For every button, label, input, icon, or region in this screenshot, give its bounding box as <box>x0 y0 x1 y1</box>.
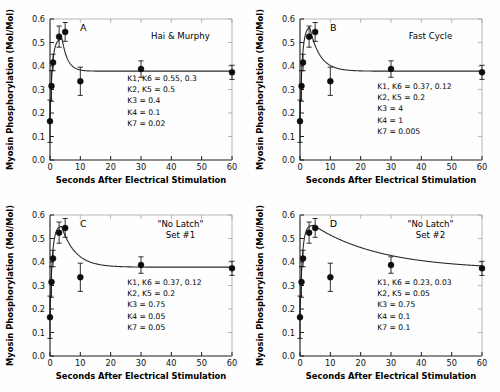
data-point <box>62 225 68 231</box>
svg-text:30: 30 <box>386 162 396 172</box>
panel-b: 01020304050600.00.10.20.30.40.50.6Second… <box>250 0 500 196</box>
panel-letter: D <box>330 218 337 229</box>
parameter-line: K3 = 4 <box>377 104 403 113</box>
data-point <box>47 314 53 320</box>
svg-text:10: 10 <box>325 358 335 368</box>
svg-text:0: 0 <box>297 162 302 172</box>
svg-text:60: 60 <box>477 358 487 368</box>
svg-text:0: 0 <box>297 358 302 368</box>
svg-text:0: 0 <box>47 162 52 172</box>
svg-text:0.4: 0.4 <box>32 61 45 71</box>
svg-text:20: 20 <box>105 162 115 172</box>
svg-text:0.5: 0.5 <box>282 38 295 48</box>
panel-subtitle: Set #1 <box>166 230 196 240</box>
parameter-line: K3 = 0.75 <box>377 300 415 309</box>
svg-text:30: 30 <box>136 162 146 172</box>
svg-text:0.0: 0.0 <box>32 155 45 165</box>
parameter-line: K2, K5 = 0.2 <box>377 93 425 102</box>
parameter-line: K2, K5 = 0.2 <box>127 289 175 298</box>
data-point <box>49 279 55 285</box>
panel-letter: B <box>330 22 337 33</box>
y-axis-label: Myosin Phosphorylation (Mol/Mol) <box>5 205 15 366</box>
svg-text:0.1: 0.1 <box>32 132 45 142</box>
svg-text:50: 50 <box>196 358 206 368</box>
svg-text:40: 40 <box>166 358 176 368</box>
data-point <box>56 34 62 40</box>
panel-subtitle: Set #2 <box>416 230 446 240</box>
svg-text:0.6: 0.6 <box>32 210 45 220</box>
panel-c: 01020304050600.00.10.20.30.40.50.6Second… <box>0 196 250 392</box>
svg-text:20: 20 <box>105 358 115 368</box>
parameter-line: K3 = 0.75 <box>127 300 165 309</box>
parameter-line: K7 = 0.1 <box>377 323 410 332</box>
svg-text:0.4: 0.4 <box>282 257 295 267</box>
svg-text:20: 20 <box>355 358 365 368</box>
svg-text:30: 30 <box>386 358 396 368</box>
data-point <box>138 66 144 72</box>
svg-text:50: 50 <box>446 162 456 172</box>
parameter-line: K4 = 0.05 <box>127 312 165 321</box>
y-axis-label: Myosin Phosphorylation (Mol/Mol) <box>255 205 265 366</box>
svg-text:0.5: 0.5 <box>282 234 295 244</box>
data-point <box>388 262 394 268</box>
svg-text:0.5: 0.5 <box>32 38 45 48</box>
svg-text:10: 10 <box>325 162 335 172</box>
parameter-line: K7 = 0.005 <box>377 127 420 136</box>
data-point <box>138 262 144 268</box>
x-axis-label: Seconds After Electrical Stimulation <box>56 371 227 381</box>
svg-text:60: 60 <box>477 162 487 172</box>
panel-title: Fast Cycle <box>409 31 452 41</box>
data-point <box>300 255 306 261</box>
data-point <box>306 34 312 40</box>
svg-text:20: 20 <box>355 162 365 172</box>
data-point <box>299 279 305 285</box>
data-point <box>62 29 68 35</box>
svg-text:0.1: 0.1 <box>282 328 295 338</box>
svg-text:50: 50 <box>446 358 456 368</box>
data-point <box>327 78 333 84</box>
svg-text:0.0: 0.0 <box>32 351 45 361</box>
svg-text:0.3: 0.3 <box>32 85 45 95</box>
parameter-line: K1, K6 = 0.55, 0.3 <box>127 74 197 83</box>
panel-title: Hai & Murphy <box>151 31 210 41</box>
x-axis-label: Seconds After Electrical Stimulation <box>306 175 477 185</box>
y-axis-label: Myosin Phosphorylation (Mol/Mol) <box>255 9 265 170</box>
data-point <box>479 69 485 75</box>
svg-text:60: 60 <box>227 358 237 368</box>
svg-text:0: 0 <box>47 358 52 368</box>
data-point <box>312 225 318 231</box>
svg-text:30: 30 <box>136 358 146 368</box>
x-axis-label: Seconds After Electrical Stimulation <box>306 371 477 381</box>
figure-panel-grid: 01020304050600.00.10.20.30.40.50.6Second… <box>0 0 500 392</box>
svg-text:0.3: 0.3 <box>282 85 295 95</box>
panel-title: "No Latch" <box>157 219 203 229</box>
svg-text:0.6: 0.6 <box>32 14 45 24</box>
data-point <box>327 274 333 280</box>
svg-text:0.1: 0.1 <box>32 328 45 338</box>
parameter-annotations: K1, K6 = 0.23, 0.03K2, K5 = 0.05K3 = 0.7… <box>377 278 451 332</box>
data-point <box>297 118 303 124</box>
svg-text:40: 40 <box>416 162 426 172</box>
svg-text:0.2: 0.2 <box>282 108 295 118</box>
parameter-line: K2, K5 = 0.5 <box>127 85 175 94</box>
panel-title: "No Latch" <box>407 219 453 229</box>
svg-text:0.5: 0.5 <box>32 234 45 244</box>
parameter-line: K1, K6 = 0.23, 0.03 <box>377 278 451 287</box>
parameter-line: K4 = 0.1 <box>377 312 410 321</box>
parameter-line: K4 = 1 <box>377 116 403 125</box>
svg-text:0.3: 0.3 <box>282 281 295 291</box>
svg-text:0.4: 0.4 <box>282 61 295 71</box>
parameter-line: K2, K5 = 0.05 <box>377 289 430 298</box>
plot-d: 01020304050600.00.10.20.30.40.50.6Second… <box>250 196 500 392</box>
parameter-annotations: K1, K6 = 0.55, 0.3K2, K5 = 0.5K3 = 0.4K4… <box>127 74 197 128</box>
svg-text:0.3: 0.3 <box>32 281 45 291</box>
plot-b: 01020304050600.00.10.20.30.40.50.6Second… <box>250 0 500 196</box>
parameter-annotations: K1, K6 = 0.37, 0.12K2, K5 = 0.2K3 = 4K4 … <box>377 82 451 136</box>
data-point <box>306 230 312 236</box>
svg-text:50: 50 <box>196 162 206 172</box>
data-point <box>300 59 306 65</box>
svg-text:40: 40 <box>166 162 176 172</box>
panel-d: 01020304050600.00.10.20.30.40.50.6Second… <box>250 196 500 392</box>
panel-letter: A <box>80 22 87 33</box>
svg-text:0.2: 0.2 <box>32 304 45 314</box>
